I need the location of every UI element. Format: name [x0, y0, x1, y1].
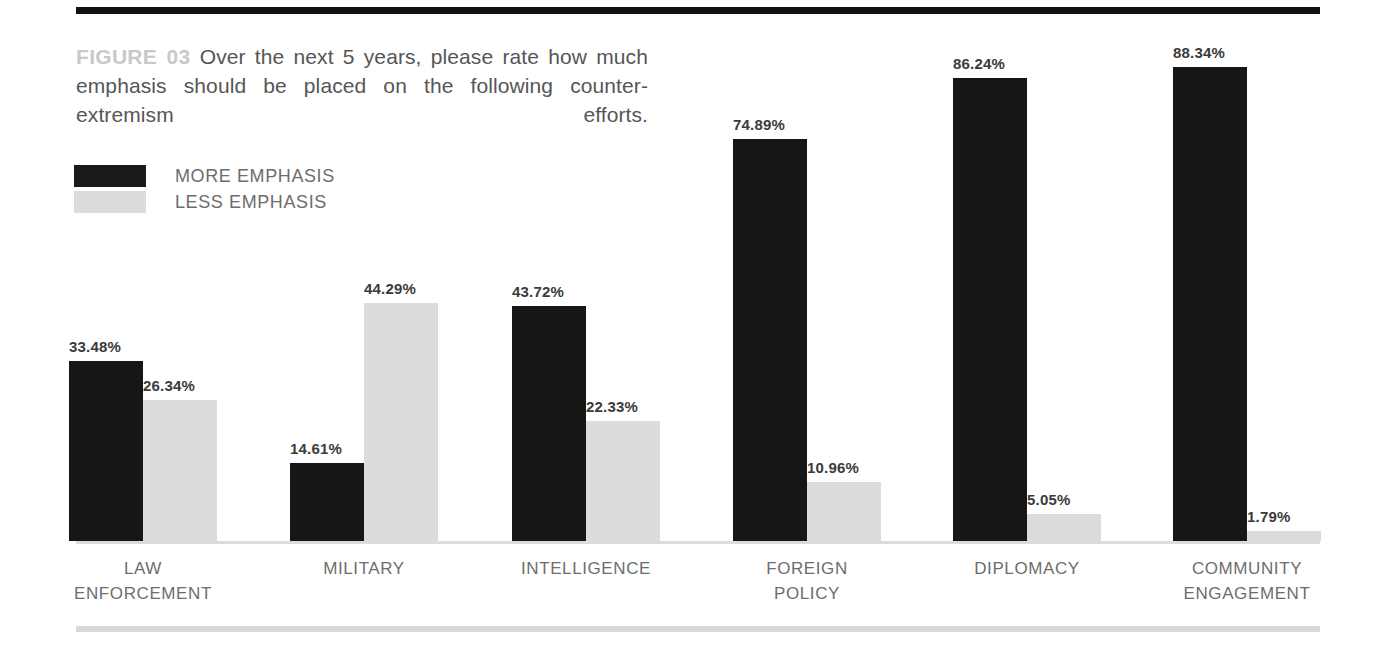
legend-swatch-more-emphasis-icon [74, 165, 146, 187]
category-label-line-1: INTELLIGENCE [472, 556, 700, 581]
category-label-line-1: FOREIGN [693, 556, 921, 581]
bar-less-emphasis-6 [1247, 531, 1321, 541]
category-label-line-2: ENFORCEMENT [29, 581, 257, 606]
category-label-5: DIPLOMACY [913, 556, 1141, 581]
category-label-line-1: MILITARY [250, 556, 478, 581]
value-label-less-emphasis-2: 44.29% [364, 280, 416, 297]
legend-label-less-emphasis: LESS EMPHASIS [175, 192, 327, 213]
value-label-more-emphasis-1: 33.48% [69, 338, 121, 355]
category-label-line-1: COMMUNITY [1133, 556, 1361, 581]
category-label-line-1: LAW [29, 556, 257, 581]
category-label-3: INTELLIGENCE [472, 556, 700, 581]
bar-more-emphasis-4 [733, 139, 807, 541]
category-label-line-1: DIPLOMACY [913, 556, 1141, 581]
category-label-1: LAWENFORCEMENT [29, 556, 257, 606]
bar-less-emphasis-4 [807, 482, 881, 541]
category-label-line-2: POLICY [693, 581, 921, 606]
bar-more-emphasis-1 [69, 361, 143, 541]
bar-less-emphasis-2 [364, 303, 438, 541]
bar-more-emphasis-3 [512, 306, 586, 541]
value-label-less-emphasis-6: 1.79% [1247, 508, 1291, 525]
category-label-4: FOREIGNPOLICY [693, 556, 921, 606]
legend-label-more-emphasis: MORE EMPHASIS [175, 166, 335, 187]
value-label-more-emphasis-4: 74.89% [733, 116, 785, 133]
chart-legend: MORE EMPHASIS LESS EMPHASIS [74, 163, 335, 215]
value-label-less-emphasis-4: 10.96% [807, 459, 859, 476]
bar-more-emphasis-2 [290, 463, 364, 541]
value-label-less-emphasis-5: 5.05% [1027, 491, 1071, 508]
bar-more-emphasis-6 [1173, 67, 1247, 541]
legend-swatch-less-emphasis-icon [74, 191, 146, 213]
bar-less-emphasis-1 [143, 400, 217, 541]
legend-item-less-emphasis: LESS EMPHASIS [74, 189, 335, 215]
bottom-divider-rule [76, 626, 1320, 632]
value-label-less-emphasis-3: 22.33% [586, 398, 638, 415]
top-divider-rule [76, 7, 1320, 14]
figure-number: FIGURE 03 [76, 45, 191, 68]
bar-less-emphasis-5 [1027, 514, 1101, 541]
category-label-2: MILITARY [250, 556, 478, 581]
legend-item-more-emphasis: MORE EMPHASIS [74, 163, 335, 189]
value-label-more-emphasis-5: 86.24% [953, 55, 1005, 72]
chart-baseline-axis [76, 541, 1320, 544]
bar-less-emphasis-3 [586, 421, 660, 541]
value-label-more-emphasis-2: 14.61% [290, 440, 342, 457]
value-label-more-emphasis-6: 88.34% [1173, 44, 1225, 61]
category-label-line-2: ENGAGEMENT [1133, 581, 1361, 606]
category-label-6: COMMUNITYENGAGEMENT [1133, 556, 1361, 606]
value-label-less-emphasis-1: 26.34% [143, 377, 195, 394]
figure-caption: FIGURE 03 Over the next 5 years, please … [76, 42, 648, 158]
value-label-more-emphasis-3: 43.72% [512, 283, 564, 300]
bar-more-emphasis-5 [953, 78, 1027, 541]
